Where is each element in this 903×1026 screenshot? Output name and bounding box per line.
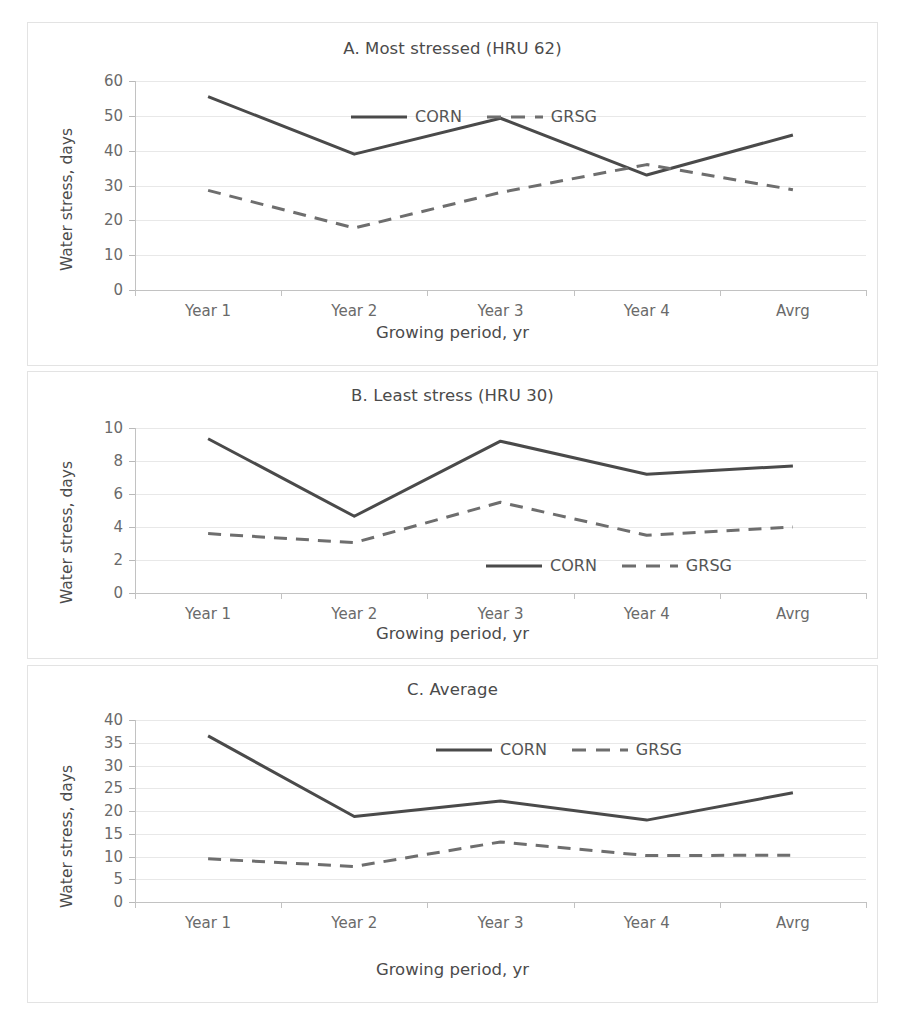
x-tick-mark (135, 593, 136, 599)
panel-a-x-axis-title: Growing period, yr (28, 323, 877, 342)
y-tick-label: 0 (113, 893, 123, 911)
x-tick-label: Year 4 (624, 302, 670, 320)
chart-panel-c: C. Average Water stress, days 0510152025… (27, 665, 878, 1003)
panel-c-x-axis-title: Growing period, yr (28, 960, 877, 979)
panel-c-y-axis-title: Water stress, days (58, 738, 76, 908)
y-tick-label: 50 (104, 107, 123, 125)
legend-label: CORN (550, 556, 597, 575)
series-line-grsg (208, 502, 793, 542)
x-tick-mark (427, 902, 428, 908)
x-tick-label: Year 2 (331, 914, 377, 932)
y-tick-label: 5 (113, 870, 123, 888)
x-tick-mark (427, 290, 428, 296)
x-tick-mark (866, 593, 867, 599)
chart-legend: CORNGRSG (435, 740, 682, 759)
x-tick-mark (281, 902, 282, 908)
y-tick-label: 20 (104, 802, 123, 820)
y-tick-label: 10 (104, 419, 123, 437)
x-tick-mark (574, 290, 575, 296)
x-tick-mark (574, 593, 575, 599)
legend-swatch-corn (485, 561, 543, 571)
x-tick-mark (720, 902, 721, 908)
legend-label: GRSG (636, 740, 682, 759)
x-tick-label: Avrg (776, 914, 810, 932)
x-axis-line (135, 290, 866, 291)
x-tick-label: Avrg (776, 302, 810, 320)
legend-item-corn: CORN (485, 556, 597, 575)
panel-b-y-axis-title: Water stress, days (58, 434, 76, 604)
legend-item-grsg: GRSG (571, 740, 682, 759)
legend-item-grsg: GRSG (621, 556, 732, 575)
legend-item-corn: CORN (435, 740, 547, 759)
y-tick-label: 10 (104, 246, 123, 264)
y-tick-label: 40 (104, 142, 123, 160)
x-tick-mark (720, 593, 721, 599)
panel-a-y-axis-title: Water stress, days (58, 101, 76, 271)
series-line-grsg (208, 842, 793, 867)
x-tick-mark (281, 593, 282, 599)
y-tick-label: 6 (113, 485, 123, 503)
y-tick-label: 2 (113, 551, 123, 569)
legend-swatch-grsg (571, 745, 629, 755)
x-tick-label: Year 3 (477, 914, 523, 932)
y-tick-label: 0 (113, 584, 123, 602)
series-line-corn (208, 439, 793, 517)
x-tick-mark (866, 902, 867, 908)
y-tick-label: 60 (104, 72, 123, 90)
x-tick-label: Avrg (776, 605, 810, 623)
panel-c-title: C. Average (28, 680, 877, 699)
y-tick-label: 8 (113, 452, 123, 470)
legend-swatch-grsg (621, 561, 679, 571)
legend-swatch-corn (350, 112, 408, 122)
x-tick-label: Year 2 (331, 302, 377, 320)
y-tick-label: 25 (104, 779, 123, 797)
y-tick-label: 30 (104, 757, 123, 775)
y-tick-label: 15 (104, 825, 123, 843)
x-tick-label: Year 1 (185, 914, 231, 932)
y-tick-label: 35 (104, 734, 123, 752)
x-axis-line (135, 902, 866, 903)
x-tick-label: Year 1 (185, 605, 231, 623)
x-tick-mark (281, 290, 282, 296)
panel-a-title: A. Most stressed (HRU 62) (28, 39, 877, 58)
legend-label: CORN (500, 740, 547, 759)
x-tick-label: Year 4 (624, 914, 670, 932)
panel-b-x-axis-title: Growing period, yr (28, 624, 877, 643)
legend-item-grsg: GRSG (486, 107, 597, 126)
x-tick-mark (427, 593, 428, 599)
legend-swatch-grsg (486, 112, 544, 122)
x-tick-mark (720, 290, 721, 296)
x-tick-mark (866, 290, 867, 296)
x-axis-line (135, 593, 866, 594)
x-tick-mark (135, 902, 136, 908)
chart-panel-a: A. Most stressed (HRU 62) Water stress, … (27, 22, 878, 366)
x-tick-mark (574, 902, 575, 908)
y-tick-label: 0 (113, 281, 123, 299)
x-tick-mark (135, 290, 136, 296)
legend-item-corn: CORN (350, 107, 462, 126)
legend-label: GRSG (551, 107, 597, 126)
legend-label: CORN (415, 107, 462, 126)
chart-legend: CORNGRSG (485, 556, 732, 575)
chart-legend: CORNGRSG (350, 107, 597, 126)
y-tick-label: 10 (104, 848, 123, 866)
chart-panel-b: B. Least stress (HRU 30) Water stress, d… (27, 371, 878, 659)
y-tick-label: 30 (104, 177, 123, 195)
y-tick-label: 4 (113, 518, 123, 536)
y-tick-label: 20 (104, 211, 123, 229)
x-tick-label: Year 2 (331, 605, 377, 623)
x-tick-label: Year 1 (185, 302, 231, 320)
y-tick-label: 40 (104, 711, 123, 729)
x-tick-label: Year 3 (477, 302, 523, 320)
series-line-grsg (208, 165, 793, 228)
legend-swatch-corn (435, 745, 493, 755)
legend-label: GRSG (686, 556, 732, 575)
panel-b-title: B. Least stress (HRU 30) (28, 386, 877, 405)
x-tick-label: Year 3 (477, 605, 523, 623)
x-tick-label: Year 4 (624, 605, 670, 623)
